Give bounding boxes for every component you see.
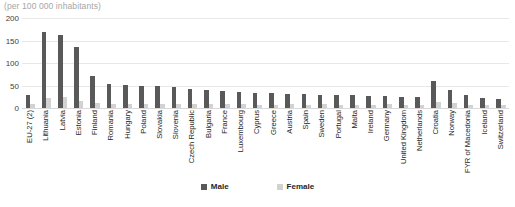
x-axis-tick-label: Portugal bbox=[335, 110, 343, 138]
x-axis-label-cell: Croatia bbox=[428, 110, 444, 176]
x-axis-label-cell: Slovenia bbox=[168, 110, 184, 176]
x-axis-tick-label: Luxembourg bbox=[237, 110, 245, 152]
bar-female bbox=[274, 105, 279, 108]
x-axis-label-cell: Lithuania bbox=[38, 110, 54, 176]
bar-group bbox=[395, 18, 411, 108]
x-axis-label-cell: Germany bbox=[379, 110, 395, 176]
x-axis-label-cell: Finland bbox=[87, 110, 103, 176]
bar-female bbox=[30, 104, 35, 108]
bar-group bbox=[22, 18, 38, 108]
x-axis-label-cell: Cyprus bbox=[249, 110, 265, 176]
x-axis-tick-label: Spain bbox=[302, 110, 310, 129]
bar-female bbox=[46, 98, 51, 108]
x-axis-tick-label: Estonia bbox=[75, 110, 83, 135]
y-axis-tick-label: 150 bbox=[6, 36, 19, 45]
x-axis-tick-label: Czech Republic bbox=[189, 110, 197, 163]
x-axis-tick-label: Latvia bbox=[59, 110, 67, 130]
x-axis-tick-label: Slovakia bbox=[156, 110, 164, 139]
bar-group bbox=[152, 18, 168, 108]
bar-female bbox=[225, 104, 230, 108]
x-axis-label-cell: Bulgaria bbox=[201, 110, 217, 176]
bar-female bbox=[436, 102, 441, 108]
x-axis-tick-label: Slovenia bbox=[172, 110, 180, 139]
x-axis-tick-label: Norway bbox=[448, 110, 456, 136]
bar-group bbox=[103, 18, 119, 108]
bar-series-container bbox=[22, 18, 509, 108]
bar-group bbox=[54, 18, 70, 108]
bar-female bbox=[420, 105, 425, 108]
chart-subtitle: (per 100 000 inhabitants) bbox=[4, 1, 101, 11]
bar-group bbox=[233, 18, 249, 108]
chart-legend: Male Female bbox=[0, 182, 515, 191]
bar-female bbox=[404, 105, 409, 108]
bar-female bbox=[241, 104, 246, 108]
bar-group bbox=[217, 18, 233, 108]
legend-label-male: Male bbox=[211, 182, 229, 191]
bar-female bbox=[257, 105, 262, 108]
x-axis-label-cell: Malta bbox=[347, 110, 363, 176]
x-axis-label-cell: Portugal bbox=[330, 110, 346, 176]
x-axis-tick-label: Lithuania bbox=[43, 110, 51, 141]
x-axis-label-cell: Romania bbox=[103, 110, 119, 176]
bar-group bbox=[347, 18, 363, 108]
bar-female bbox=[128, 104, 133, 108]
legend-swatch-female-icon bbox=[277, 184, 283, 190]
legend-item-female[interactable]: Female bbox=[277, 182, 315, 191]
x-axis-label-cell: FYR of Macedonia bbox=[460, 110, 476, 176]
x-axis-label-cell: Ireland bbox=[363, 110, 379, 176]
bar-female bbox=[371, 105, 376, 108]
bar-female bbox=[209, 104, 214, 108]
bar-group bbox=[71, 18, 87, 108]
x-axis-label-cell: United Kingdom bbox=[395, 110, 411, 176]
bar-group bbox=[136, 18, 152, 108]
bar-group bbox=[184, 18, 200, 108]
bar-female bbox=[306, 105, 311, 108]
legend-swatch-male-icon bbox=[201, 184, 207, 190]
bar-female bbox=[192, 104, 197, 108]
y-axis-tick-label: 50 bbox=[10, 81, 19, 90]
x-axis-tick-label: France bbox=[221, 110, 229, 134]
x-axis-label-cell: Norway bbox=[444, 110, 460, 176]
bar-female bbox=[468, 105, 473, 108]
legend-label-female: Female bbox=[287, 182, 315, 191]
legend-item-male[interactable]: Male bbox=[201, 182, 229, 191]
x-axis-label-cell: Luxembourg bbox=[233, 110, 249, 176]
x-axis-tick-label: Malta bbox=[351, 110, 359, 129]
x-axis-tick-label: Ireland bbox=[367, 110, 375, 133]
x-axis-tick-label: Poland bbox=[140, 110, 148, 134]
x-axis-tick-label: Germany bbox=[383, 110, 391, 141]
x-axis-tick-label: Netherlands bbox=[416, 110, 424, 151]
bar-female bbox=[339, 105, 344, 108]
x-axis-label-cell: Netherlands bbox=[412, 110, 428, 176]
bar-female bbox=[111, 104, 116, 109]
x-axis-tick-label: Greece bbox=[270, 110, 278, 135]
x-axis-tick-label: FYR of Macedonia bbox=[465, 110, 473, 173]
bar-female bbox=[160, 104, 165, 108]
bar-group bbox=[282, 18, 298, 108]
bar-female bbox=[452, 103, 457, 108]
x-axis-label-cell: Hungary bbox=[119, 110, 135, 176]
bar-group bbox=[38, 18, 54, 108]
bar-group bbox=[119, 18, 135, 108]
x-axis-tick-label: Switzerland bbox=[497, 110, 505, 149]
y-axis-tick-label: 200 bbox=[6, 14, 19, 23]
x-axis-labels: EU-27 (2)LithuaniaLatviaEstoniaFinlandRo… bbox=[22, 110, 509, 176]
x-axis-tick-label: United Kingdom bbox=[400, 110, 408, 164]
bar-female bbox=[290, 104, 295, 108]
x-axis-tick-label: Croatia bbox=[432, 110, 440, 134]
x-axis-label-cell: Czech Republic bbox=[184, 110, 200, 176]
x-axis-tick-label: Cyprus bbox=[254, 110, 262, 134]
bar-female bbox=[95, 103, 100, 108]
x-axis-label-cell: Iceland bbox=[477, 110, 493, 176]
bar-group bbox=[168, 18, 184, 108]
bar-group bbox=[428, 18, 444, 108]
bar-group bbox=[314, 18, 330, 108]
x-axis-tick-label: Bulgaria bbox=[205, 110, 213, 138]
bar-male bbox=[42, 32, 47, 109]
bar-group bbox=[330, 18, 346, 108]
x-axis-label-cell: France bbox=[217, 110, 233, 176]
bar-group bbox=[412, 18, 428, 108]
bar-female bbox=[176, 104, 181, 108]
bar-female bbox=[387, 104, 392, 108]
bar-group bbox=[477, 18, 493, 108]
